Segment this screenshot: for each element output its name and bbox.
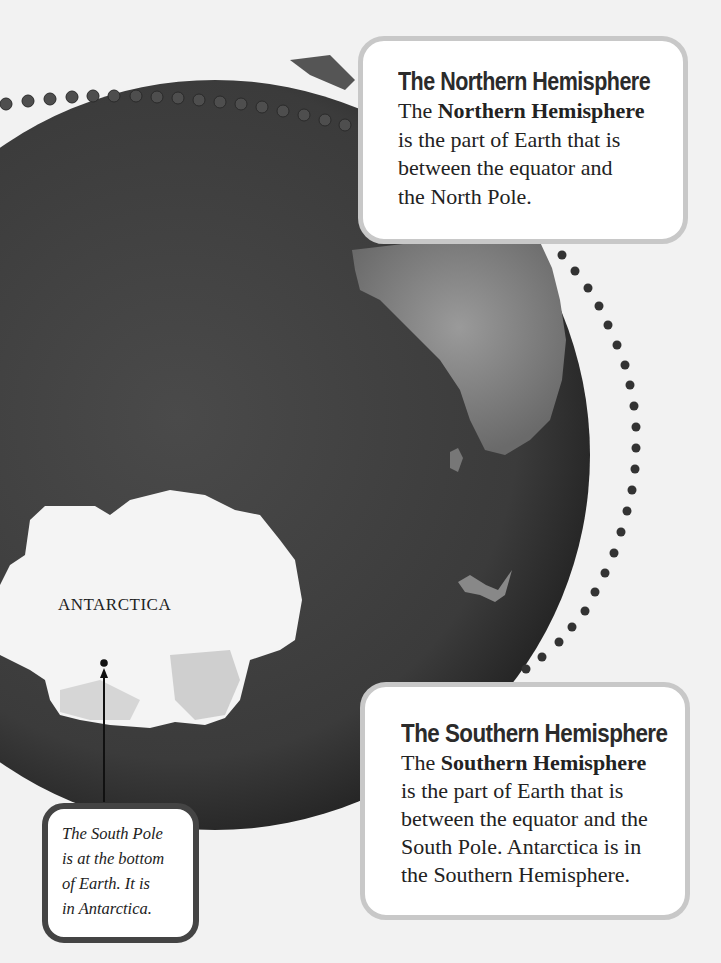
southern-hemisphere-callout: The Southern Hemisphere The Southern Hem… xyxy=(360,682,690,920)
south-pole-text: The South Pole is at the bottom of Earth… xyxy=(62,821,193,921)
antarctica-label: ANTARCTICA xyxy=(58,595,171,615)
text-line: the North Pole. xyxy=(398,184,532,209)
text-line: of Earth. It is xyxy=(62,874,150,893)
text-line: in Antarctica. xyxy=(62,899,152,918)
bold-term: Southern Hemisphere xyxy=(441,750,647,775)
text-line: is the part of Earth that is xyxy=(401,778,623,803)
northern-hemisphere-title: The Northern Hemisphere xyxy=(398,65,643,97)
south-pole-callout: The South Pole is at the bottom of Earth… xyxy=(42,803,199,943)
bold-term: Northern Hemisphere xyxy=(438,98,645,123)
text-line: is the part of Earth that is xyxy=(398,127,620,152)
northern-hemisphere-text: The Northern Hemisphere is the part of E… xyxy=(398,97,683,211)
text-fragment: The xyxy=(398,98,438,123)
northern-hemisphere-callout: The Northern Hemisphere The Northern Hem… xyxy=(358,36,688,244)
text-line: The South Pole xyxy=(62,824,163,843)
page: ANTARCTICA The Northern Hemisphere The N… xyxy=(0,0,721,963)
text-fragment: The xyxy=(401,750,441,775)
text-line: between the equator and the xyxy=(401,806,648,831)
southern-hemisphere-text: The Southern Hemisphere is the part of E… xyxy=(401,749,685,889)
text-line: between the equator and xyxy=(398,155,612,180)
southern-hemisphere-title: The Southern Hemisphere xyxy=(401,717,645,749)
text-line: South Pole. Antarctica is in xyxy=(401,834,641,859)
text-line: the Southern Hemisphere. xyxy=(401,862,630,887)
text-line: is at the bottom xyxy=(62,849,164,868)
asia-edge xyxy=(290,55,355,90)
